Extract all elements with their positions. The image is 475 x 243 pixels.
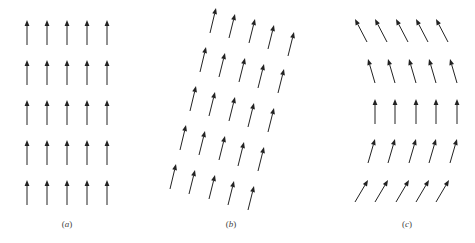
arrow-shaft — [436, 185, 446, 202]
arrow-head-icon — [428, 59, 433, 65]
arrow-shaft — [190, 92, 195, 111]
arrow-head-icon — [432, 139, 437, 145]
arrow-head-icon — [65, 100, 70, 106]
arrow-head-icon — [45, 100, 50, 106]
arrow-head-icon — [105, 60, 110, 66]
arrow-head-icon — [211, 175, 216, 181]
arrow-shaft — [229, 20, 234, 38]
arrow-shaft — [416, 185, 426, 202]
arrow-shaft — [288, 38, 293, 56]
arrow-head-icon — [363, 180, 368, 186]
arrow-head-icon — [391, 139, 396, 145]
panel-b-sheared-arrows — [170, 8, 295, 210]
arrow-head-icon — [172, 164, 177, 170]
panel-label-b: (b) — [226, 219, 237, 229]
arrow-head-icon — [25, 140, 30, 146]
arrow-head-icon — [393, 99, 398, 105]
arrow-shaft — [370, 65, 375, 83]
panel-label-c: (c) — [402, 219, 412, 229]
arrow-shaft — [258, 153, 263, 171]
arrow-head-icon — [85, 180, 90, 186]
arrow-head-icon — [434, 99, 439, 105]
arrow-shaft — [429, 145, 434, 163]
arrow-shaft — [200, 53, 205, 72]
arrow-shaft — [189, 176, 194, 194]
panel-label-a-text: a — [65, 219, 70, 229]
arrow-shaft — [180, 131, 185, 150]
arrow-head-icon — [383, 180, 388, 186]
arrow-shaft — [238, 148, 243, 166]
arrow-head-icon — [85, 60, 90, 66]
arrow-head-icon — [202, 47, 207, 53]
arrow-shaft — [388, 145, 393, 163]
arrow-head-icon — [25, 20, 30, 26]
arrow-head-icon — [250, 103, 255, 109]
arrow-shaft — [209, 181, 214, 199]
arrow-shaft — [419, 24, 428, 42]
arrow-shaft — [210, 14, 215, 33]
arrow-head-icon — [182, 125, 187, 131]
arrow-head-icon — [260, 64, 265, 70]
arrow-head-icon — [367, 59, 372, 65]
panel-label-c-text: c — [405, 219, 409, 229]
arrow-shaft — [209, 98, 214, 116]
arrow-shaft — [278, 75, 283, 93]
arrow-head-icon — [280, 69, 285, 75]
arrow-shaft — [170, 170, 175, 189]
arrow-shaft — [355, 185, 365, 202]
arrow-head-icon — [373, 99, 378, 105]
arrow-shaft — [431, 65, 436, 83]
arrow-head-icon — [251, 19, 256, 25]
arrow-head-icon — [192, 86, 197, 92]
arrow-shaft — [248, 192, 253, 210]
arrow-head-icon — [45, 60, 50, 66]
arrow-head-icon — [45, 20, 50, 26]
arrow-head-icon — [396, 19, 401, 25]
arrow-head-icon — [387, 59, 392, 65]
arrow-shaft — [399, 24, 408, 42]
arrow-head-icon — [221, 53, 226, 59]
arrow-shaft — [378, 24, 387, 42]
arrow-head-icon — [414, 99, 419, 105]
arrow-shaft — [375, 185, 385, 202]
arrow-head-icon — [65, 20, 70, 26]
arrow-head-icon — [212, 8, 217, 14]
arrow-head-icon — [260, 147, 265, 153]
arrow-head-icon — [250, 186, 255, 192]
arrow-head-icon — [270, 108, 275, 114]
arrow-shaft — [409, 145, 414, 163]
arrow-head-icon — [25, 60, 30, 66]
arrow-shaft — [229, 103, 234, 121]
arrow-shaft — [358, 24, 367, 42]
arrow-head-icon — [453, 139, 458, 145]
vector-field-figure — [0, 0, 475, 243]
arrow-shaft — [411, 65, 416, 83]
arrow-head-icon — [231, 14, 236, 20]
arrow-shaft — [396, 185, 406, 202]
arrow-head-icon — [290, 32, 295, 38]
arrow-shaft — [248, 109, 253, 127]
arrow-head-icon — [231, 97, 236, 103]
arrow-head-icon — [444, 180, 449, 186]
arrow-head-icon — [105, 100, 110, 106]
arrow-shaft — [268, 114, 273, 132]
arrow-head-icon — [65, 60, 70, 66]
arrow-head-icon — [105, 140, 110, 146]
arrow-shaft — [228, 187, 233, 205]
arrow-head-icon — [449, 59, 454, 65]
arrow-head-icon — [45, 180, 50, 186]
arrow-shaft — [452, 65, 457, 83]
arrow-head-icon — [375, 19, 380, 25]
arrow-shaft — [219, 59, 224, 77]
arrow-head-icon — [85, 140, 90, 146]
arrow-shaft — [258, 70, 263, 88]
arrow-head-icon — [230, 181, 235, 187]
arrow-head-icon — [424, 180, 429, 186]
arrow-shaft — [268, 31, 273, 49]
arrow-head-icon — [211, 92, 216, 98]
arrow-head-icon — [241, 58, 246, 64]
arrow-head-icon — [25, 180, 30, 186]
arrow-head-icon — [270, 25, 275, 31]
arrow-head-icon — [404, 180, 409, 186]
arrow-shaft — [219, 142, 224, 160]
